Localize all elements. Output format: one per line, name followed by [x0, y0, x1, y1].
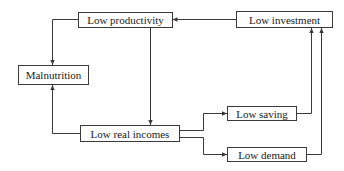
- node-low-real-incomes: Low real incomes: [80, 125, 180, 142]
- node-label: Low productivity: [87, 14, 164, 26]
- node-label: Malnutrition: [26, 69, 82, 81]
- node-malnutrition: Malnutrition: [18, 65, 89, 85]
- node-label: Low investment: [249, 14, 320, 26]
- arrow-incomes-to-demand: [180, 138, 227, 155]
- node-low-productivity: Low productivity: [78, 12, 173, 28]
- node-label: Low real incomes: [91, 128, 170, 140]
- arrow-incomes-to-saving: [180, 114, 227, 131]
- node-label: Low saving: [236, 108, 288, 120]
- node-label: Low demand: [238, 149, 296, 161]
- arrow-saving-to-investment: [296, 28, 312, 114]
- arrow-incomes-to-malnutrition: [53, 85, 81, 134]
- node-low-demand: Low demand: [227, 147, 307, 162]
- vicious-cycle-diagram: Low productivity Low investment Malnutri…: [0, 0, 344, 171]
- node-low-saving: Low saving: [227, 106, 297, 121]
- arrow-demand-to-investment: [306, 28, 322, 155]
- arrow-productivity-to-malnutrition: [53, 20, 79, 66]
- node-low-investment: Low investment: [236, 11, 333, 28]
